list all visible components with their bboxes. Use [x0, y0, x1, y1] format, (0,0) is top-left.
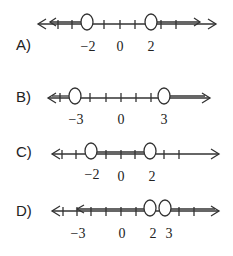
- tick-label: 2: [148, 39, 155, 55]
- tick-label: 0: [118, 112, 125, 128]
- tick-label: 0: [117, 39, 124, 55]
- tick-label: 2: [150, 226, 157, 242]
- tick-label: −2: [81, 39, 96, 55]
- tick-label: −3: [71, 226, 86, 242]
- option-d-label[interactable]: D): [16, 202, 32, 219]
- tick-label: −2: [85, 167, 100, 183]
- tick-label: 0: [119, 226, 126, 242]
- option-b-label[interactable]: B): [16, 88, 31, 105]
- option-a-label[interactable]: A): [16, 36, 31, 53]
- tick-label: 3: [161, 112, 168, 128]
- tick-label: −3: [69, 112, 84, 128]
- option-c-label[interactable]: C): [16, 143, 32, 160]
- tick-label: 3: [166, 226, 173, 242]
- tick-label: 0: [118, 169, 125, 185]
- tick-label: 2: [149, 169, 156, 185]
